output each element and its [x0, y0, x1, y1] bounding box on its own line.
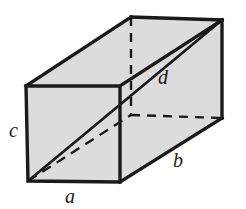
- label-c: c: [9, 119, 18, 141]
- figure-container: a b c d: [0, 0, 246, 209]
- rectangular-box-diagram: a b c d: [0, 0, 246, 209]
- front-face: [26, 86, 120, 182]
- label-b: b: [173, 149, 183, 171]
- label-a: a: [65, 185, 75, 207]
- label-d: d: [158, 66, 169, 88]
